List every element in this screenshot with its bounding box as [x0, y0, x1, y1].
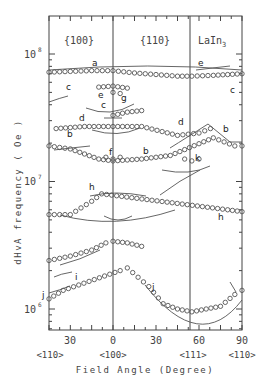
x-axis-label: Field Angle (Degree) [76, 365, 214, 375]
data-point-a [132, 71, 136, 75]
fit-curve [230, 282, 236, 292]
branch-label-d: d [79, 113, 85, 123]
data-point-a [175, 74, 179, 78]
branch-label-h: h [218, 212, 224, 222]
data-point-i [68, 254, 72, 258]
x-tick-label-30-left: 30 [64, 335, 76, 346]
svg-text:7: 7 [38, 173, 42, 180]
data-point-j [204, 307, 208, 311]
data-point-d [197, 131, 201, 135]
data-point-j [233, 292, 237, 296]
svg-text:10: 10 [24, 49, 36, 60]
fit-curve [54, 272, 72, 277]
data-point-i [139, 244, 143, 248]
data-point-i [104, 241, 108, 245]
y-tick-label-1e8: 108 [24, 46, 42, 60]
data-point-e [125, 86, 129, 90]
svg-text:10: 10 [24, 304, 36, 315]
branch-label-j: j [41, 290, 45, 300]
branch-label-c: c [101, 100, 106, 110]
branch-label-a: a [92, 58, 98, 68]
data-point-j [147, 284, 151, 288]
fit-curve [60, 250, 100, 265]
branch-label-c: c [230, 85, 235, 95]
data-point-b [139, 157, 143, 161]
fit-curve [145, 285, 242, 324]
direction-label-100: <100> [99, 350, 127, 360]
branch-label-i: i [75, 272, 78, 282]
data-point-j [125, 266, 129, 270]
branch-label-c: c [66, 82, 71, 92]
data-point-a [68, 69, 72, 73]
chart-title: LaIn3 [198, 35, 226, 49]
data-point-c [139, 108, 143, 112]
x-tick-label-30: 30 [150, 335, 162, 346]
branch-label-h: h [89, 182, 95, 192]
data-point-j [118, 268, 122, 272]
data-point-a [154, 72, 158, 76]
branch-label-f: f [109, 147, 113, 157]
x-tick-label-0: 0 [110, 335, 116, 346]
title-text: LaIn [198, 35, 222, 46]
branch-label-b: b [143, 146, 149, 156]
data-point-b [233, 144, 237, 148]
fit-curve [49, 96, 68, 102]
plane-label-100: {100} [64, 35, 94, 46]
x-tick-label-90: 90 [236, 335, 248, 346]
data-point-c [125, 110, 129, 114]
y-axis-label: dHvA frequency ( Oe ) [13, 119, 23, 264]
branch-label-b: b [67, 129, 73, 139]
data-point-e [97, 85, 101, 89]
branch-label-e: e [98, 90, 104, 100]
y-tick-label-1e7: 107 [24, 173, 42, 187]
fit-curve [162, 166, 210, 172]
data-point-b [97, 157, 101, 161]
branch-label-k: k [195, 153, 201, 163]
data-point-d [208, 126, 212, 130]
data-point-i [89, 248, 93, 252]
data-point-a [89, 68, 93, 72]
svg-text:10: 10 [24, 176, 36, 187]
data-point-d [139, 124, 143, 128]
data-point-b [68, 147, 72, 151]
data-point-i [125, 241, 129, 245]
branch-labels: aeccegcddbbbfkhhijj [41, 58, 235, 300]
dhva-chart: aeccegcddbbbfkhhijj {100} {110} LaIn3 10… [0, 0, 272, 386]
fit-curves [49, 66, 242, 324]
data-point-k [182, 157, 186, 161]
data-point-h [68, 212, 72, 216]
data-point-b [168, 153, 172, 157]
direction-label-111: <111> [179, 350, 207, 360]
fit-curve [86, 104, 134, 112]
direction-label-110-left: <110> [36, 350, 64, 360]
data-point-d [54, 126, 58, 130]
y-tick-label-1e6: 106 [24, 301, 42, 315]
data-point-d [175, 133, 179, 137]
data-point-b [211, 136, 215, 140]
data-point-d [82, 124, 86, 128]
data-point-a [211, 73, 215, 77]
data-point-h [225, 208, 229, 212]
plane-label-110: {110} [140, 35, 170, 46]
data-point-j [175, 307, 179, 311]
fit-curve [104, 216, 132, 220]
branch-label-d: d [178, 117, 184, 127]
direction-label-110-right: <110> [228, 350, 256, 360]
branch-label-b: b [223, 124, 229, 134]
branch-label-e: e [198, 58, 204, 68]
branch-label-g: g [121, 93, 127, 103]
fit-curve [160, 170, 200, 195]
data-point-j [218, 304, 222, 308]
data-point-f [118, 155, 122, 159]
branch-label-j: j [151, 282, 155, 292]
x-tick-label-60: 60 [193, 335, 205, 346]
data-point-h [89, 199, 93, 203]
svg-text:8: 8 [38, 46, 42, 53]
svg-text:6: 6 [38, 301, 42, 308]
